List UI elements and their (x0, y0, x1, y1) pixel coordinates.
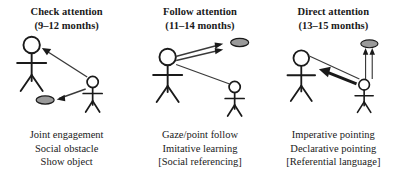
panel-row: Check attention (9–12 months) (0, 0, 400, 188)
panel-1-svg (0, 33, 133, 127)
panel-1-heading-title: Check attention (31, 5, 103, 19)
panel-1-caption-2: Social obstacle (30, 142, 104, 156)
infant-stick-figure (355, 79, 373, 112)
panel-3-heading-age: (13–15 months) (298, 19, 369, 33)
panel-1-diagram (0, 33, 133, 127)
arrow-infant-to-object-right (369, 48, 375, 79)
panel-3-heading: Direct attention (13–15 months) (298, 5, 369, 32)
panel-2-heading-title: Follow attention (163, 5, 237, 19)
panel-check-attention: Check attention (9–12 months) (0, 0, 133, 188)
adult-stick-figure (287, 50, 315, 101)
panel-1-heading-age: (9–12 months) (31, 19, 103, 33)
panel-2-heading-age: (11–14 months) (163, 19, 237, 33)
panel-2-svg (133, 33, 266, 127)
adult-stick-figure (153, 49, 182, 102)
infant-stick-figure (225, 81, 244, 116)
infant-stick-figure (83, 76, 102, 112)
object-oval (36, 96, 54, 104)
arrow-infant-to-object (57, 89, 86, 101)
arrow-infant-to-adult-head (42, 48, 87, 77)
object-oval (231, 38, 249, 46)
panel-follow-attention: Follow attention (11–14 months) (133, 0, 266, 188)
panel-1-heading: Check attention (9–12 months) (31, 5, 103, 32)
panel-2-caption-3: [Social referencing] (158, 155, 242, 169)
panel-3-caption-2: Declarative pointing (286, 142, 380, 156)
panel-2-caption-2: Imitative learning (158, 142, 242, 156)
infant-head-icon (358, 79, 369, 90)
panel-1-captions: Joint engagement Social obstacle Show ob… (30, 128, 104, 169)
adult-head-icon (293, 50, 309, 66)
panel-1-caption-1: Joint engagement (30, 128, 104, 142)
panel-1-caption-3: Show object (30, 155, 104, 169)
panel-2-caption-1: Gaze/point follow (158, 128, 242, 142)
panel-direct-attention: Direct attention (13–15 months) (267, 0, 400, 188)
panel-2-heading: Follow attention (11–14 months) (163, 5, 237, 32)
panel-2-captions: Gaze/point follow Imitative learning [So… (158, 128, 242, 169)
adult-head-icon (23, 37, 39, 53)
developmental-stages-figure: Check attention (9–12 months) (0, 0, 400, 188)
panel-3-captions: Imperative pointing Declarative pointing… (286, 128, 380, 169)
panel-3-diagram (267, 33, 400, 127)
adult-stick-figure (17, 37, 46, 91)
panel-3-svg (267, 33, 400, 127)
panel-3-heading-title: Direct attention (298, 5, 369, 19)
arrow-infant-to-object-left (362, 48, 368, 79)
infant-head-icon (87, 76, 98, 87)
panel-3-caption-3: [Referential language] (286, 155, 380, 169)
line-adult-to-infant (176, 65, 230, 85)
infant-head-icon (229, 81, 240, 92)
object-oval (360, 40, 377, 48)
panel-2-diagram (133, 33, 266, 127)
adult-head-icon (160, 49, 176, 65)
panel-3-caption-1: Imperative pointing (286, 128, 380, 142)
